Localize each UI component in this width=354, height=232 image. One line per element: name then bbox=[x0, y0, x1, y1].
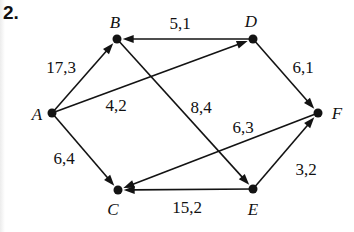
edge-line-B-E bbox=[117, 39, 243, 178]
node-dot-A bbox=[48, 109, 57, 118]
edge-line-E-F bbox=[253, 124, 308, 189]
node-label-B: B bbox=[110, 13, 121, 32]
node-dot-E bbox=[249, 185, 258, 194]
edge-label-D-B: 5,1 bbox=[169, 14, 190, 33]
edge-label-F-C: 6,3 bbox=[232, 118, 253, 137]
edge-line-E-C bbox=[133, 189, 253, 190]
node-label-D: D bbox=[244, 12, 258, 31]
edge-label-B-E: 8,4 bbox=[190, 98, 212, 117]
edge-label-E-C: 15,2 bbox=[172, 198, 202, 217]
edge-label-E-F: 3,2 bbox=[295, 160, 316, 179]
graph-canvas: 17,34,26,45,16,18,46,315,23,2ABCDEF bbox=[0, 0, 354, 232]
arrowhead-icon-A-D bbox=[236, 41, 248, 49]
node-label-E: E bbox=[247, 200, 259, 219]
node-dot-C bbox=[114, 186, 123, 195]
node-dot-D bbox=[249, 35, 258, 44]
arrowhead-icon-D-B bbox=[123, 35, 134, 43]
edge-label-D-F: 6,1 bbox=[292, 58, 313, 77]
edge-label-A-B: 17,3 bbox=[46, 58, 76, 77]
edge-label-A-C: 6,4 bbox=[53, 149, 75, 168]
node-label-F: F bbox=[331, 104, 343, 123]
node-dot-B bbox=[113, 35, 122, 44]
node-label-A: A bbox=[31, 105, 43, 124]
figure-container: 2. 17,34,26,45,16,18,46,315,23,2ABCDEF bbox=[0, 0, 354, 232]
node-label-C: C bbox=[107, 200, 119, 219]
edge-line-F-C bbox=[132, 113, 318, 185]
edge-label-A-D: 4,2 bbox=[105, 96, 126, 115]
edge-line-A-C bbox=[52, 113, 108, 179]
node-dot-F bbox=[314, 109, 323, 118]
